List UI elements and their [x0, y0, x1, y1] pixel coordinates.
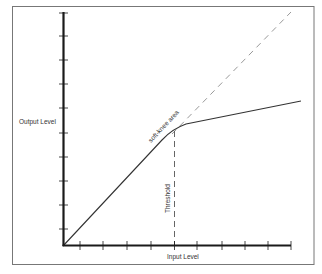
transfer-curve — [63, 101, 301, 246]
y-axis-label: Output Level — [19, 118, 56, 126]
x-axis-label: Input Level — [167, 253, 199, 261]
unity-dashed-line — [172, 12, 291, 134]
compressor-diagram: Output Level Input Level Threshold soft-… — [0, 0, 322, 274]
threshold-label: Threshold — [164, 184, 171, 213]
frame-border — [13, 7, 315, 265]
